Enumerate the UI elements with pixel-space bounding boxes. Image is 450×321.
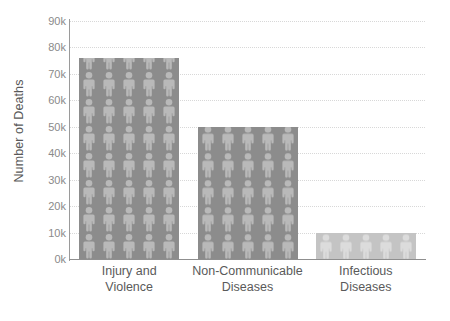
bar[interactable] — [316, 233, 416, 259]
y-axis-tick-label: 60k — [32, 94, 66, 106]
y-axis-title: Number of Deaths — [6, 0, 32, 262]
bar[interactable] — [79, 58, 179, 259]
x-axis-tick-label-line: Diseases — [188, 280, 306, 296]
x-axis-tick-label: InfectiousDiseases — [307, 264, 425, 295]
bar[interactable] — [198, 127, 298, 259]
bar-chart: Number of Deaths 0k10k20k30k40k50k60k70k… — [0, 0, 450, 321]
x-axis-tick-label: Injury andViolence — [70, 264, 188, 295]
y-axis-tick-label: 0k — [32, 253, 66, 265]
x-axis-tick-labels: Injury andViolenceNon-CommunicableDiseas… — [70, 264, 425, 316]
y-axis-tick-label: 90k — [32, 15, 66, 27]
y-axis-tick-label: 20k — [32, 200, 66, 212]
x-axis-tick-label-line: Infectious — [339, 264, 393, 278]
x-axis-tick-label-line: Diseases — [307, 280, 425, 296]
x-axis-tick-label: Non-CommunicableDiseases — [188, 264, 306, 295]
x-axis-line — [69, 259, 426, 260]
y-axis-tick-labels: 0k10k20k30k40k50k60k70k80k90k — [32, 13, 66, 267]
y-axis-line — [69, 19, 70, 261]
person-pictogram-pattern — [198, 127, 298, 259]
x-axis-tick-label-line: Non-Communicable — [192, 264, 302, 278]
y-axis-tick-label: 10k — [32, 227, 66, 239]
y-axis-tick-label: 40k — [32, 147, 66, 159]
y-axis-tick-label: 50k — [32, 121, 66, 133]
y-axis-tick-label: 80k — [32, 41, 66, 53]
y-axis-tick-label: 30k — [32, 174, 66, 186]
bars-group — [70, 21, 425, 259]
x-axis-tick-label-line: Violence — [70, 280, 188, 296]
person-pictogram-pattern — [316, 233, 416, 259]
y-axis-title-text: Number of Deaths — [12, 79, 26, 182]
plot-area — [70, 21, 425, 259]
x-axis-tick-label-line: Injury and — [102, 264, 157, 278]
y-axis-tick-label: 70k — [32, 68, 66, 80]
person-pictogram-pattern — [79, 58, 179, 259]
